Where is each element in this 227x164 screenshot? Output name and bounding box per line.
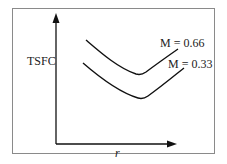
plot-svg [0, 0, 227, 164]
x-axis-arrow-icon [167, 141, 177, 148]
y-axis [53, 13, 60, 144]
curve-label-upper: M = 0.66 [160, 37, 204, 49]
curve-label-lower: M = 0.33 [168, 58, 212, 70]
y-axis-arrow-icon [53, 13, 60, 23]
y-axis-label: TSFC [27, 55, 56, 67]
x-axis-label: r [115, 147, 120, 159]
